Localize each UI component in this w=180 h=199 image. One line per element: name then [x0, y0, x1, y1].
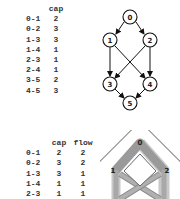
node-5: 5 [123, 96, 137, 110]
cap-cell: 3 [46, 35, 66, 45]
node-2-label: 2 [165, 167, 170, 175]
cap-cell: 3 [46, 24, 66, 34]
node-0-label: 0 [138, 139, 143, 147]
table-row: 0-122 [26, 148, 96, 158]
edge-cell: 0-1 [26, 14, 46, 24]
header-flow: flow [70, 138, 96, 148]
svg-text:1: 1 [108, 37, 113, 45]
node-2: 2 [143, 33, 157, 47]
flow-cell: 2 [70, 158, 96, 168]
node-1: 1 [103, 33, 117, 47]
table-row: 0-12 [26, 14, 66, 24]
edge-cell: 1-3 [26, 35, 46, 45]
header-edge [26, 138, 48, 148]
table-row: 0-23 [26, 24, 66, 34]
capacity-flow-table: cap flow 0-122 0-232 1-331 1-411 2-311 [26, 138, 96, 199]
cap-cell: 1 [46, 65, 66, 75]
header-cap: cap [46, 4, 66, 14]
node-0: 0 [123, 10, 137, 24]
cap-cell: 1 [48, 189, 70, 199]
table-row: 2-41 [26, 65, 66, 75]
flow-cell: 1 [70, 169, 96, 179]
flow-cell: 1 [70, 189, 96, 199]
cap-cell: 3 [48, 158, 70, 168]
table-header-row: cap [26, 4, 66, 14]
table-row: 2-31 [26, 55, 66, 65]
edge-cell: 0-1 [26, 148, 48, 158]
flow-visualization-graph: 0 1 2 [100, 130, 180, 199]
header-edge [26, 4, 46, 14]
table-row: 0-232 [26, 158, 96, 168]
svg-text:5: 5 [128, 100, 133, 108]
edge-cell: 1-4 [26, 179, 48, 189]
header-cap: cap [48, 138, 70, 148]
flow-network-graph: 0 1 2 3 4 5 [100, 0, 170, 114]
edge-0-1 [116, 22, 124, 34]
cap-cell: 3 [46, 86, 66, 96]
cap-cell: 1 [46, 55, 66, 65]
cap-cell: 1 [46, 45, 66, 55]
table-row: 1-33 [26, 35, 66, 45]
edge-4-5 [136, 89, 145, 98]
table-row: 1-41 [26, 45, 66, 55]
cap-cell: 2 [46, 75, 66, 85]
table-row: 4-53 [26, 86, 66, 96]
table-row: 3-52 [26, 75, 66, 85]
node-4: 4 [143, 77, 157, 91]
edge-cell: 0-2 [26, 24, 46, 34]
svg-text:4: 4 [148, 81, 153, 89]
node-1-label: 1 [111, 167, 116, 175]
edge-cell: 2-3 [26, 189, 48, 199]
flow-cell: 1 [70, 179, 96, 189]
edge-cell: 2-4 [26, 65, 46, 75]
node-3: 3 [103, 77, 117, 91]
edge-cell: 2-3 [26, 55, 46, 65]
edge-cell: 0-2 [26, 158, 48, 168]
edge-3-5 [115, 89, 124, 98]
table-header-row: cap flow [26, 138, 96, 148]
svg-text:3: 3 [108, 81, 113, 89]
edge-cell: 4-5 [26, 86, 46, 96]
edge-0-2 [136, 22, 144, 34]
svg-text:2: 2 [148, 37, 153, 45]
table-row: 1-331 [26, 169, 96, 179]
svg-text:0: 0 [128, 14, 133, 22]
cap-cell: 3 [48, 169, 70, 179]
cap-cell: 2 [46, 14, 66, 24]
table-row: 2-311 [26, 189, 96, 199]
edge-cell: 1-3 [26, 169, 48, 179]
edge-cell: 3-5 [26, 75, 46, 85]
capacity-table: cap 0-12 0-23 1-33 1-41 2-31 2-41 3-52 4… [26, 4, 66, 96]
flow-cell: 2 [70, 148, 96, 158]
cap-cell: 2 [48, 148, 70, 158]
table-row: 1-411 [26, 179, 96, 189]
cap-cell: 1 [48, 179, 70, 189]
edge-cell: 1-4 [26, 45, 46, 55]
